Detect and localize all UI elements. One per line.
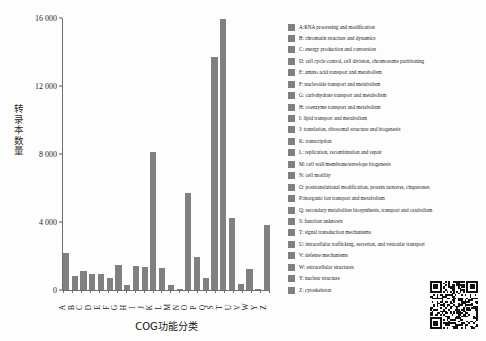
legend-swatch: [288, 35, 295, 42]
legend-swatch: [288, 241, 295, 248]
y-axis-tick-label: 16 000: [23, 14, 57, 23]
bar: [185, 193, 191, 290]
bar: [264, 225, 270, 290]
legend-swatch: [288, 69, 295, 76]
legend-item: Q: secondary metabolites biosynthesis, t…: [288, 205, 484, 216]
bar: [159, 268, 165, 290]
legend-label: F: nucleotide transport and metabolism: [299, 79, 380, 89]
legend-item: S: function unknown: [288, 216, 484, 227]
legend-label: W: extracellular structures: [299, 262, 354, 272]
bar-column: [229, 18, 235, 290]
legend-swatch: [288, 104, 295, 111]
y-axis-tick-label: 8 000: [23, 150, 57, 159]
legend-swatch: [288, 81, 295, 88]
legend-item: D: cell cycle control, cell division, ch…: [288, 56, 484, 67]
legend-label: Z: cytoskeleton: [299, 285, 331, 295]
bar-column: [80, 18, 86, 290]
y-axis-title-char: 转: [12, 104, 26, 115]
legend-item: G: carbohydrate transport and metabolism: [288, 91, 484, 102]
bar-column: [203, 18, 209, 290]
legend-swatch: [288, 287, 295, 294]
bar-column: [89, 18, 95, 290]
bar: [115, 265, 121, 291]
legend-swatch: [288, 195, 295, 202]
legend-label: Y: nuclear structure: [299, 274, 340, 284]
legend-label: I: lipid transport and metabolism: [299, 114, 367, 124]
bar: [203, 278, 209, 290]
bar-column: [107, 18, 113, 290]
legend-label: G: carbohydrate transport and metabolism: [299, 91, 387, 101]
bar: [211, 57, 217, 290]
legend-swatch: [288, 252, 295, 259]
bar-column: [133, 18, 139, 290]
legend-item: J: translation, ribosomal structure and …: [288, 125, 484, 136]
legend: A:RNA processing and modificationB: chro…: [288, 22, 484, 297]
y-axis-tick-label: 0: [23, 286, 57, 295]
legend-swatch: [288, 46, 295, 53]
legend-item: N: cell motility: [288, 171, 484, 182]
legend-label: B: chromatin structure and dynamics: [299, 33, 376, 43]
x-axis-tick-mark: [153, 290, 154, 293]
x-axis-tick-mark: [81, 290, 82, 293]
x-axis-tick-mark: [224, 290, 225, 293]
legend-item: W: extracellular structures: [288, 262, 484, 273]
legend-label: H: coenzyme transport and metabolism: [299, 102, 381, 112]
bar-column: [238, 18, 244, 290]
x-axis-tick-mark: [108, 290, 109, 293]
legend-item: H: coenzyme transport and metabolism: [288, 102, 484, 113]
legend-swatch: [288, 184, 295, 191]
bar-column: [168, 18, 174, 290]
legend-label: P:inorganic ion transport and metabolism: [299, 194, 385, 204]
legend-label: M: cell wall/membrane/envelope biogenesi…: [299, 159, 391, 169]
legend-item: P:inorganic ion transport and metabolism: [288, 194, 484, 205]
legend-label: D: cell cycle control, cell division, ch…: [299, 56, 424, 66]
bar-column: [246, 18, 252, 290]
legend-item: A:RNA processing and modification: [288, 22, 484, 33]
x-axis-tick-mark: [188, 290, 189, 293]
bar: [246, 269, 252, 290]
x-axis-tick-mark: [144, 290, 145, 293]
legend-item: O: posttranslational modification, prote…: [288, 182, 484, 193]
y-axis-title-char: 本: [12, 125, 26, 136]
legend-swatch: [288, 58, 295, 65]
bar: [80, 271, 86, 290]
legend-label: C: energy production and conversion: [299, 45, 376, 55]
bar: [72, 276, 78, 290]
legend-label: A:RNA processing and modification: [299, 22, 375, 32]
y-axis-tick-label: 4 000: [23, 218, 57, 227]
bar: [98, 274, 104, 290]
bar-series: [63, 18, 270, 290]
x-axis-tick-mark: [99, 290, 100, 293]
legend-item: F: nucleotide transport and metabolism: [288, 79, 484, 90]
legend-item: B: chromatin structure and dynamics: [288, 33, 484, 44]
legend-item: I: lipid transport and metabolism: [288, 114, 484, 125]
legend-swatch: [288, 161, 295, 168]
bar: [150, 152, 156, 290]
legend-label: V: defense mechanisms: [299, 251, 348, 261]
bar: [220, 19, 226, 290]
x-axis-tick-mark: [170, 290, 171, 293]
legend-label: Q: secondary metabolites biosynthesis, t…: [299, 205, 432, 215]
legend-swatch: [288, 24, 295, 31]
legend-swatch: [288, 138, 295, 145]
legend-swatch: [288, 207, 295, 214]
x-axis-tick-mark: [90, 290, 91, 293]
bar: [133, 266, 139, 290]
bar: [63, 253, 69, 290]
legend-swatch: [288, 218, 295, 225]
bar: [194, 257, 200, 290]
legend-item: C: energy production and conversion: [288, 45, 484, 56]
legend-label: N: cell motility: [299, 171, 331, 181]
legend-swatch: [288, 126, 295, 133]
legend-item: U: intracellular trafficking, secretion,…: [288, 239, 484, 250]
bar-column: [72, 18, 78, 290]
x-axis-tick-label: Z: [258, 304, 275, 310]
x-axis-tick-mark: [242, 290, 243, 293]
x-axis-tick-labels: ABCDEFGHIJKLMNOPQSTUVWYZ: [63, 294, 270, 316]
bar-column: [185, 18, 191, 290]
bar-column: [177, 18, 183, 290]
x-axis-tick-mark: [63, 290, 64, 293]
cog-bar-chart: 转录本数量 04 0008 00012 00016 000 ABCDEFGHIJ…: [0, 0, 286, 341]
legend-label: L: replication, recombination and repair: [299, 148, 382, 158]
bar: [142, 267, 148, 290]
